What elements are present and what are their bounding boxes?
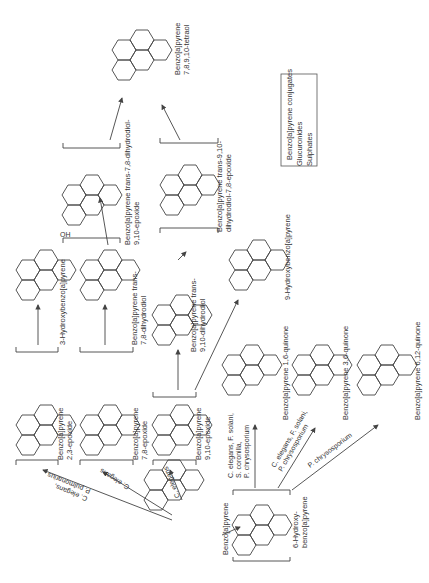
arrow-to-q612 — [292, 425, 378, 490]
label-q36: Benzo[a]pyrene 3,6-quinone — [341, 326, 350, 420]
compound-q16 — [222, 345, 282, 395]
label-9-hydroxy: 9-Hydroxybenzo[a]pyrene — [283, 214, 292, 300]
arrow-to-tetraol-1 — [110, 98, 122, 140]
arrow-to-diolep910 — [178, 252, 186, 260]
pathway-diagram: Benzo[a]pyrene Benzo[a]pyrene2,3-epoxide… — [0, 0, 429, 583]
organism-q612: P. chrysosporium — [306, 431, 353, 469]
label-q16: Benzo[a]pyrene 1,6-quinone — [281, 326, 290, 420]
compound-tetraol — [112, 30, 172, 80]
label-diol910: Benzo[a]pyrene trans-9,10-dihydrodiol — [189, 278, 207, 352]
oh-group: OH — [60, 231, 71, 238]
label-diolep910: Benzo[a]pyrene trans-9,10-dihydrodiol-7,… — [215, 141, 233, 232]
label-conjugates: Benzo[a]pyrene conjugatesGlucuronidesSul… — [285, 69, 314, 166]
label-e78: Benzo[a]pyrene7,8-epoxide — [131, 407, 149, 460]
organism-e78: C. elegans — [98, 466, 131, 491]
arrow-to-tetraol-2 — [162, 105, 180, 140]
organism-q16: C. elegans, F. solani,S. coronilla,P. ch… — [227, 413, 251, 478]
label-tetraol: Benzo[a]pyrene7,8,9,10-tetraol — [173, 22, 191, 75]
label-diolep78: Benzo[a]pyrene trans-7,8-dihydrodiol-9,1… — [123, 119, 141, 245]
organism-e23: C. elegans,P. pulmonarius — [43, 470, 92, 502]
label-parent: Benzo[a]pyrene — [221, 502, 230, 555]
compound-diolep910 — [160, 138, 220, 233]
compound-6-hydroxy — [232, 490, 292, 561]
compound-q612 — [357, 345, 417, 395]
compound-diolep78 — [62, 143, 122, 243]
label-q612: Benzo[a]pyrene 6,12-quinone — [413, 322, 422, 420]
label-diol78: Benzo[a]pyrene trans-7,8-dihydrodiol — [130, 271, 148, 345]
label-6-hydroxy: 6-Hydroxy-benzo[a]pyrene — [291, 496, 309, 548]
compound-3-hydroxy — [16, 250, 76, 300]
compound-9-hydroxy — [229, 240, 289, 290]
label-3-hydroxy: 3-Hydroxybenzo[a]pyrene — [58, 259, 67, 345]
